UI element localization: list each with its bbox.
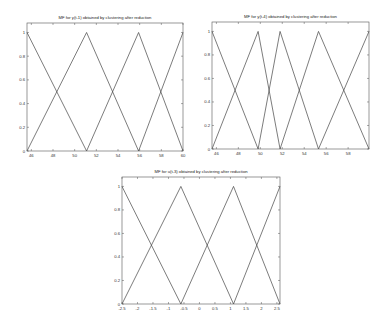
x-tick-label: -1: [167, 306, 171, 311]
mf-line: [122, 186, 234, 304]
y-tick-label: 0.4: [114, 254, 120, 259]
x-tick-label: 0.5: [212, 306, 218, 311]
x-tick-label: 2.5: [274, 306, 280, 311]
x-tick-label: -2: [136, 306, 140, 311]
x-tick-label: -1.5: [149, 306, 157, 311]
y-tick-label: 1: [118, 184, 121, 189]
x-tick-label: 1.5: [243, 306, 249, 311]
y-tick-label: 0.2: [114, 278, 120, 283]
x-tick-label: 0: [198, 306, 201, 311]
x-tick-label: 1: [229, 306, 232, 311]
x-tick-label: 2: [260, 306, 263, 311]
mf-line: [181, 186, 280, 304]
x-tick-label: -0.5: [180, 306, 188, 311]
plot-area: -2.5-2-1.5-1-0.500.511.522.500.20.40.60.…: [0, 0, 386, 320]
axes-box: [122, 177, 280, 304]
y-tick-label: 0.6: [114, 231, 120, 236]
y-tick-label: 0.8: [114, 207, 120, 212]
